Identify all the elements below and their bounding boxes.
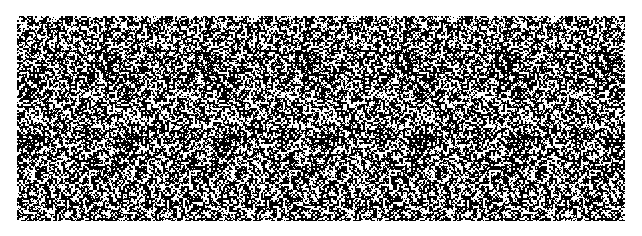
- noise-canvas: [17, 16, 625, 221]
- stereogram-noise-pattern: [17, 16, 625, 221]
